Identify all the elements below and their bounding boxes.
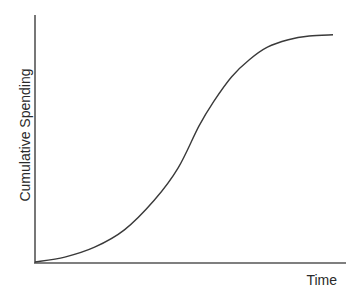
cumulative-spending-curve [35,35,333,262]
s-curve-chart [0,0,364,295]
plot-area [34,15,346,263]
x-axis-label: Time [306,272,337,288]
y-axis-label: Cumulative Spending [17,68,33,201]
